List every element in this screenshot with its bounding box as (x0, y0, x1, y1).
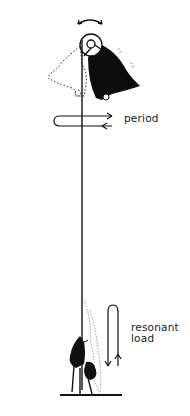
period-arrow-icon (54, 113, 112, 129)
resonant-load-line2: load (131, 333, 190, 344)
resonant-load-label: resonant load (131, 322, 190, 344)
ringer-dotted-outline (84, 300, 101, 394)
wheel (80, 34, 102, 56)
load-arrow-icon (105, 305, 121, 366)
bell-diagram: period resonant load (0, 0, 190, 416)
period-label: period (124, 113, 159, 124)
bell-dotted-outline (48, 46, 87, 96)
swing-arrow-icon (78, 20, 102, 24)
ringer-figure (70, 336, 97, 394)
